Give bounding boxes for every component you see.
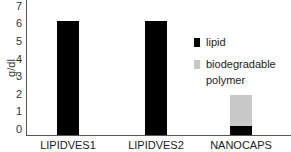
- bar-lipidves2-lipid: [145, 21, 167, 135]
- y-axis-line: [26, 0, 27, 136]
- y-tick-label: 7: [12, 1, 22, 12]
- y-tick-label: 6: [12, 18, 22, 29]
- y-tick-label: 5: [12, 36, 22, 47]
- x-axis-line: [26, 135, 291, 136]
- bar-nanocaps-lipid: [230, 126, 252, 135]
- y-tick-label: 4: [12, 54, 22, 65]
- legend-swatch-lipid: [194, 38, 200, 47]
- x-tick-label: LIPIDVES1: [28, 139, 108, 151]
- legend: lipid biodegradable polymer: [194, 36, 291, 87]
- x-tick-label: NANOCAPS: [201, 139, 281, 151]
- legend-item-biodegradable-polymer: biodegradable polymer: [194, 58, 291, 87]
- y-tick-label: 1: [12, 106, 22, 117]
- legend-label-biodegradable: biodegradable: [206, 58, 276, 71]
- bar-nanocaps-biodegradable-polymer: [230, 95, 252, 127]
- y-tick-label: 3: [12, 71, 22, 82]
- legend-label-polymer: polymer: [206, 74, 276, 87]
- legend-label-lipid: lipid: [206, 36, 226, 49]
- bar-lipidves1-lipid: [57, 21, 79, 135]
- y-tick-label: 2: [12, 89, 22, 100]
- y-tick-label: 0: [12, 124, 22, 135]
- legend-swatch-biodegradable-polymer: [194, 60, 200, 69]
- legend-item-lipid: lipid: [194, 36, 291, 49]
- x-tick-label: LIPIDVES2: [116, 139, 196, 151]
